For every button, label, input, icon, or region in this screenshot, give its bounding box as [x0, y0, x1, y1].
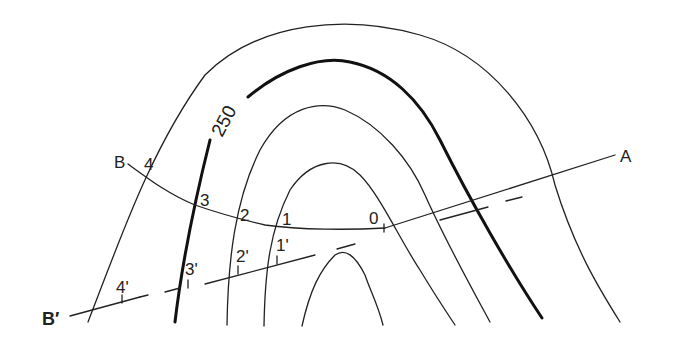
line-Bprime-dash1: [140, 295, 148, 297]
line-Bprime-seg: [205, 255, 315, 284]
point-1: 1: [282, 210, 291, 229]
contour-diagram: B A B′ 4 3 2 1 0 4' 3' 2' 1' 250: [0, 0, 684, 349]
point-4-prime: 4': [116, 278, 129, 297]
line-Bprime: [70, 297, 140, 316]
line-Bprime-dash4: [506, 197, 522, 201]
point-0: 0: [369, 209, 378, 228]
label-B: B: [114, 153, 125, 172]
line-Bprime-dash3: [337, 244, 355, 249]
profile-line-BA: [128, 164, 385, 229]
contour-label-250: 250: [207, 102, 240, 140]
contour-inner-2: [264, 163, 455, 326]
contour-outer: [88, 24, 620, 322]
contour-inner-1: [227, 106, 490, 325]
label-Bprime: B′: [42, 309, 59, 329]
point-3: 3: [200, 191, 209, 210]
point-1-prime: 1': [276, 236, 289, 255]
point-4: 4: [144, 155, 153, 174]
contour-250: [175, 60, 542, 322]
tick-marks: [122, 224, 384, 303]
point-2-prime: 2': [236, 247, 249, 266]
contour-innermost: [302, 252, 383, 326]
point-2: 2: [240, 206, 249, 225]
label-A: A: [620, 147, 632, 166]
point-3-prime: 3': [185, 260, 198, 279]
line-to-A: [385, 155, 615, 228]
